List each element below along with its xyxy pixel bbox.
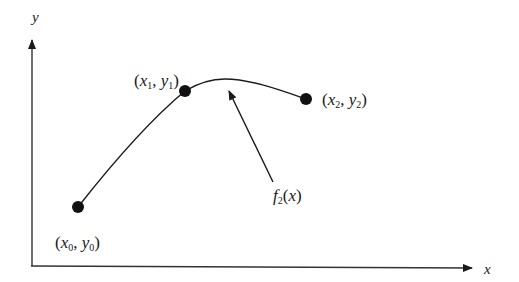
- point-label-p0: (x0, y0): [55, 233, 100, 253]
- svg-text:(x0, y0): (x0, y0): [55, 233, 100, 253]
- point-p0: [72, 201, 84, 213]
- svg-text:f2(x): f2(x): [273, 186, 302, 206]
- svg-text:(x2, y2): (x2, y2): [322, 90, 367, 110]
- x-axis: [31, 266, 472, 268]
- interpolating-curve: [78, 79, 306, 207]
- interpolation-diagram: y x (x0, y0) (x1, y1) (x2, y2) f2(x): [0, 0, 519, 282]
- svg-text:(x1, y1): (x1, y1): [134, 71, 179, 91]
- point-p2: [300, 93, 312, 105]
- point-label-p2: (x2, y2): [322, 90, 367, 110]
- curve-pointer-arrow: [229, 91, 273, 182]
- curve-label: f2(x): [273, 186, 302, 206]
- x-axis-label: x: [483, 261, 491, 277]
- point-label-p1: (x1, y1): [134, 71, 179, 91]
- point-p1: [179, 85, 191, 97]
- y-axis-label: y: [30, 9, 39, 25]
